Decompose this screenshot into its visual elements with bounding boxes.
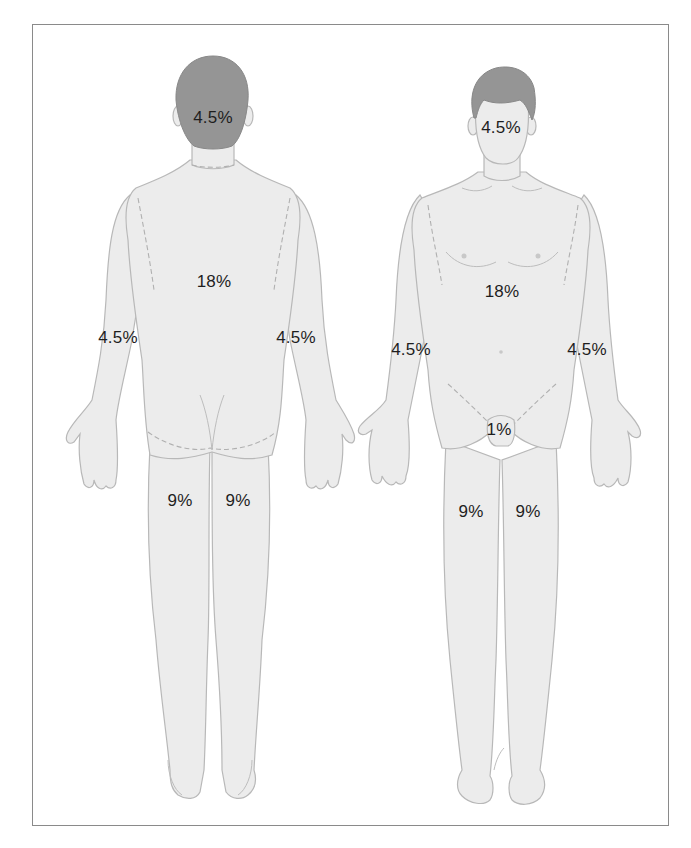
front-left-leg-label: 9% — [516, 502, 541, 522]
back-right-leg-label: 9% — [168, 491, 193, 511]
front-torso — [412, 172, 590, 449]
back-head-label: 4.5% — [193, 108, 233, 128]
front-head-label: 4.5% — [481, 118, 521, 138]
front-left-arm-label: 4.5% — [567, 340, 607, 360]
body-figures: .skin { fill:#ececec; stroke:#b8b8b8; st… — [0, 0, 691, 848]
back-torso — [126, 160, 300, 459]
back-left-leg-label: 9% — [226, 491, 251, 511]
back-left-arm-label: 4.5% — [276, 328, 316, 348]
front-legs — [444, 440, 558, 804]
back-right-arm-label: 4.5% — [98, 328, 138, 348]
back-head — [176, 56, 248, 149]
front-groin-label: 1% — [487, 420, 512, 440]
back-figure — [66, 56, 354, 798]
back-trunk-label: 18% — [197, 272, 232, 292]
front-right-leg-label: 9% — [459, 502, 484, 522]
front-right-arm-label: 4.5% — [391, 340, 431, 360]
front-trunk-label: 18% — [485, 282, 520, 302]
